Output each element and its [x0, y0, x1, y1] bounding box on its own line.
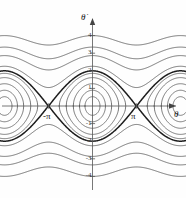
y-tick-label-6: -3: [84, 155, 92, 162]
y-tick-label-0: 4: [84, 32, 92, 39]
y-axis-arrowhead: [90, 18, 95, 25]
y-axis-label: θ̇: [81, 13, 85, 22]
running-lower-4: [0, 167, 186, 176]
figure-canvas: θ̇ θ -π π 4321-1-2-3-4: [0, 0, 186, 198]
y-tick-label-7: -4: [84, 172, 92, 179]
x-axis-arrowhead: [169, 103, 176, 109]
x-tick-label-neg-pi: -π: [43, 112, 51, 121]
x-tick-label-pi: π: [131, 112, 136, 121]
phase-portrait-svg: [0, 0, 186, 198]
running-upper-4: [0, 36, 186, 45]
y-tick-label-3: 1: [84, 84, 92, 91]
axes-group: [2, 18, 176, 190]
y-tick-label-2: 2: [84, 67, 92, 74]
x-axis-label: θ: [174, 110, 178, 119]
running-lower-1: [0, 124, 186, 145]
running-upper-1: [0, 66, 186, 87]
y-tick-label-5: -2: [84, 137, 92, 144]
running-lower-2: [0, 142, 186, 156]
y-tick-label-4: -1: [84, 120, 92, 127]
y-tick-label-1: 3: [84, 49, 92, 56]
running-upper-2: [0, 56, 186, 70]
